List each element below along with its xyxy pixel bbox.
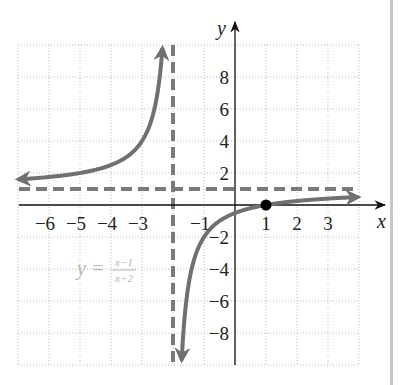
x-tick-label: −5 (66, 213, 86, 234)
curve-left-branch (18, 48, 162, 180)
x-tick-label: 3 (323, 213, 333, 234)
x-tick-label: −6 (35, 213, 55, 234)
x-intercept-point (261, 200, 272, 211)
y-tick-label: 6 (220, 99, 230, 120)
y-tick-label: −2 (209, 227, 229, 248)
x-axis-label: x (376, 210, 386, 232)
y-tick-label: 8 (220, 67, 230, 88)
x-tick-label: −3 (128, 213, 148, 234)
rational-function-graph: −6−5−4−3−1123 8642−2−4−6−8 x y y = x−1 x… (0, 0, 406, 385)
equation-lhs: y = (75, 257, 104, 280)
x-tick-label: −1 (190, 213, 210, 234)
equation-numerator: x−1 (114, 256, 133, 268)
x-tick-label: −4 (97, 213, 118, 234)
y-tick-label: 2 (220, 163, 230, 184)
x-tick-labels: −6−5−4−3−1123 (35, 213, 333, 234)
y-tick-label: −6 (209, 291, 229, 312)
x-tick-label: 2 (292, 213, 302, 234)
y-tick-label: −4 (209, 259, 230, 280)
equation-denominator: x+2 (114, 272, 133, 284)
x-tick-label: 1 (261, 213, 271, 234)
equation-label: y = x−1 x+2 (75, 256, 136, 284)
frame-border (390, 0, 393, 385)
y-tick-label: 4 (220, 131, 230, 152)
y-tick-label: −8 (209, 323, 229, 344)
y-axis-label: y (215, 17, 226, 40)
